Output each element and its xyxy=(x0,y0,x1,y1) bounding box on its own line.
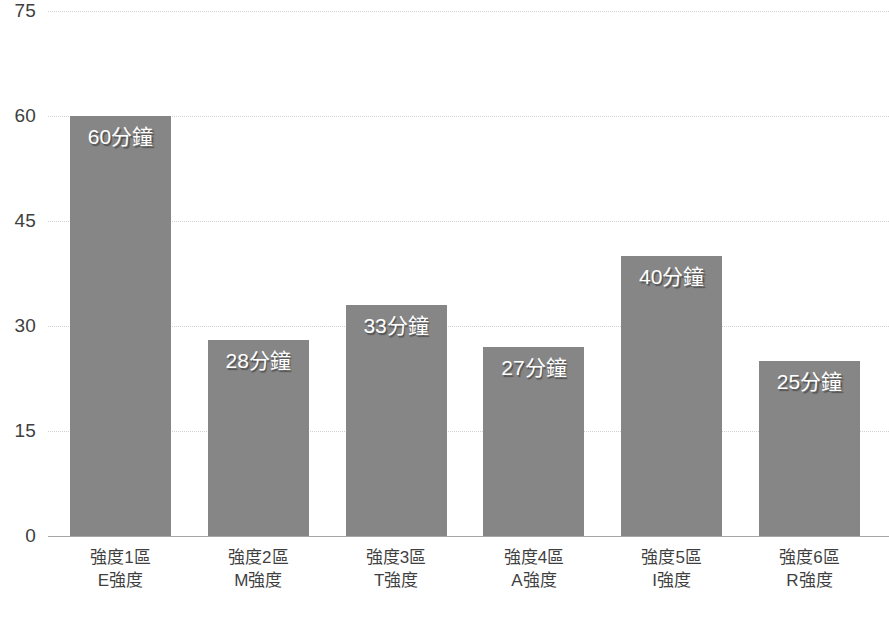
bar-value-label: 27分鐘 xyxy=(483,356,584,380)
x-axis-category-label: 強度4區A強度 xyxy=(473,547,594,592)
bar-value-label: 60分鐘 xyxy=(70,125,171,149)
bar[interactable]: 28分鐘 xyxy=(208,340,309,536)
x-axis-category-label: 強度1區E強度 xyxy=(60,547,181,592)
y-axis-tick-label: 0 xyxy=(0,526,36,545)
bar[interactable]: 33分鐘 xyxy=(346,305,447,536)
bar-value-label: 25分鐘 xyxy=(759,370,860,394)
gridline xyxy=(48,221,889,222)
bar[interactable]: 40分鐘 xyxy=(621,256,722,536)
plot-area: 60分鐘28分鐘33分鐘27分鐘40分鐘25分鐘 xyxy=(48,0,889,537)
category-label-line1: 強度4區 xyxy=(504,548,564,567)
gridline xyxy=(48,326,889,327)
category-label-line1: 強度1區 xyxy=(90,548,150,567)
bar-chart: 60分鐘28分鐘33分鐘27分鐘40分鐘25分鐘 75604530150 強度1… xyxy=(0,0,889,620)
bar[interactable]: 25分鐘 xyxy=(759,361,860,536)
category-label-line1: 強度6區 xyxy=(779,548,839,567)
x-axis-category-label: 強度5區I強度 xyxy=(611,547,732,592)
y-axis-tick-label: 15 xyxy=(0,421,36,440)
x-axis-line xyxy=(48,536,889,537)
category-label-line2: R強度 xyxy=(749,570,870,593)
y-axis-tick-label: 30 xyxy=(0,316,36,335)
category-label-line1: 強度3區 xyxy=(366,548,426,567)
category-label-line2: E強度 xyxy=(60,570,181,593)
category-label-line1: 強度5區 xyxy=(641,548,701,567)
category-label-line2: M強度 xyxy=(198,570,319,593)
x-axis-category-label: 強度2區M強度 xyxy=(198,547,319,592)
y-axis-tick-label: 75 xyxy=(0,1,36,20)
category-label-line2: T強度 xyxy=(336,570,457,593)
bar-value-label: 33分鐘 xyxy=(346,314,447,338)
gridline xyxy=(48,116,889,117)
category-label-line1: 強度2區 xyxy=(228,548,288,567)
category-label-line2: A強度 xyxy=(473,570,594,593)
gridline xyxy=(48,11,889,12)
bar-value-label: 28分鐘 xyxy=(208,349,309,373)
y-axis-tick-label: 60 xyxy=(0,106,36,125)
x-axis-category-label: 強度6區R強度 xyxy=(749,547,870,592)
bar[interactable]: 27分鐘 xyxy=(483,347,584,536)
bar-value-label: 40分鐘 xyxy=(621,265,722,289)
bar[interactable]: 60分鐘 xyxy=(70,116,171,536)
y-axis-tick-label: 45 xyxy=(0,211,36,230)
x-axis-category-label: 強度3區T強度 xyxy=(336,547,457,592)
category-label-line2: I強度 xyxy=(611,570,732,593)
